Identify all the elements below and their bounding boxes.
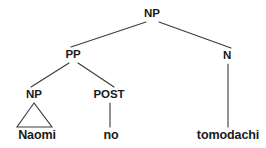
leaf-label-naomi: Naomi — [18, 129, 56, 142]
tree-edges-canvas — [0, 0, 266, 148]
node-label-pp: PP — [65, 49, 80, 61]
syntax-tree-figure: NP PP N NP POST Naomi no tomodachi — [0, 0, 266, 148]
np-ellipsis-triangle — [17, 103, 52, 127]
node-label-np-inner: NP — [26, 89, 42, 101]
tree-edge-pp-to-np — [31, 63, 69, 87]
node-label-n: N — [223, 50, 231, 62]
node-label-root-np: NP — [144, 8, 160, 20]
leaf-label-tomodachi: tomodachi — [197, 129, 259, 142]
node-label-post: POST — [94, 89, 125, 101]
tree-edge-root-np-to-n — [159, 22, 231, 48]
tree-edge-root-np-to-pp — [71, 22, 146, 47]
tree-edge-pp-to-post — [78, 63, 114, 87]
leaf-label-no: no — [103, 129, 118, 142]
